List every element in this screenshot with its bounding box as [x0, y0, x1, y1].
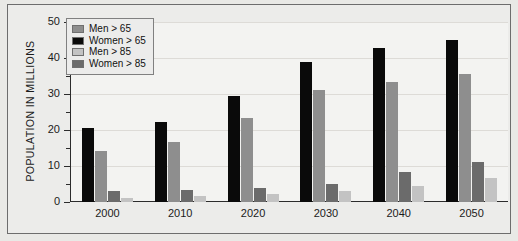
- bar: [82, 128, 94, 202]
- y-axis-tick-label: 10: [34, 160, 60, 171]
- bar: [228, 96, 240, 202]
- legend-swatch-icon: [72, 25, 84, 33]
- bar: [399, 172, 411, 202]
- y-axis-tick-label: 30: [34, 88, 60, 99]
- chart-frame: 01020304050 POPULATION IN MILLIONS 20002…: [7, 4, 511, 234]
- x-axis-tick-label: 2010: [140, 207, 220, 219]
- x-axis-tick-label: 2020: [213, 207, 293, 219]
- y-axis-tick: [64, 130, 70, 131]
- x-axis-tick-label: 2050: [432, 207, 512, 219]
- bar: [95, 151, 107, 202]
- legend-label: Men > 65: [89, 24, 131, 34]
- legend-item: Women > 85: [72, 58, 146, 69]
- bar: [326, 184, 338, 202]
- bar: [485, 178, 497, 202]
- y-axis-title-wrap: POPULATION IN MILLIONS: [14, 5, 36, 241]
- bar: [254, 188, 266, 202]
- bar: [373, 48, 385, 202]
- y-axis-tick-label: 20: [34, 124, 60, 135]
- legend-item: Women > 65: [72, 35, 146, 46]
- x-axis-tick-label: 2030: [286, 207, 366, 219]
- bar: [181, 190, 193, 202]
- bar: [168, 142, 180, 202]
- gridline: [71, 166, 508, 167]
- bar: [339, 191, 351, 202]
- bar: [155, 122, 167, 202]
- legend-swatch-icon: [72, 37, 84, 45]
- bar: [121, 198, 133, 202]
- bar: [459, 74, 471, 202]
- bar: [313, 90, 325, 202]
- bar: [446, 40, 458, 202]
- y-axis-tick-label: 50: [34, 16, 60, 27]
- gridline: [71, 130, 508, 131]
- x-axis-tick-label: 2040: [359, 207, 439, 219]
- bar: [241, 118, 253, 202]
- chart-page: 01020304050 POPULATION IN MILLIONS 20002…: [0, 0, 518, 241]
- legend-item: Men > 85: [72, 47, 146, 58]
- legend-item: Men > 65: [72, 24, 146, 35]
- y-axis-minor-tick: [66, 184, 70, 185]
- x-axis-tick-label: 2000: [67, 207, 147, 219]
- bar: [412, 186, 424, 202]
- legend-label: Men > 85: [89, 47, 131, 57]
- bar: [386, 82, 398, 202]
- bar: [472, 162, 484, 202]
- bar: [267, 194, 279, 202]
- bar: [108, 191, 120, 202]
- y-axis-tick-label: 40: [34, 52, 60, 63]
- y-axis-minor-tick: [66, 112, 70, 113]
- y-axis-tick: [64, 94, 70, 95]
- bar: [194, 196, 206, 202]
- chart-legend: Men > 65Women > 65Men > 85Women > 85: [66, 18, 154, 75]
- y-axis-title: POPULATION IN MILLIONS: [24, 21, 36, 201]
- legend-swatch-icon: [72, 60, 84, 68]
- x-axis-line: [70, 201, 508, 202]
- y-axis-tick-label: 0: [34, 196, 60, 207]
- gridline: [71, 94, 508, 95]
- legend-label: Women > 85: [89, 59, 146, 69]
- y-axis-minor-tick: [66, 76, 70, 77]
- y-axis-tick: [64, 166, 70, 167]
- y-axis-minor-tick: [66, 148, 70, 149]
- legend-swatch-icon: [72, 48, 84, 56]
- bar: [300, 62, 312, 202]
- y-axis-tick: [64, 202, 70, 203]
- legend-label: Women > 65: [89, 36, 146, 46]
